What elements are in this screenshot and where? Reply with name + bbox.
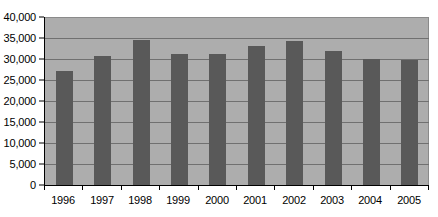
bar [286, 41, 303, 185]
x-axis-tick-mark [198, 185, 199, 190]
bar [56, 71, 73, 185]
x-axis-tick-label: 1999 [166, 194, 190, 206]
bar-chart: 05,00010,00015,00020,00025,00030,00035,0… [0, 0, 438, 217]
bar [133, 40, 150, 185]
x-axis-tick-mark [274, 185, 275, 190]
plot-area [44, 17, 429, 185]
x-axis-tick-mark [351, 185, 352, 190]
bar [401, 60, 418, 185]
y-axis-tick-label: 40,000 [4, 11, 36, 23]
y-axis-tick-label: 5,000 [9, 158, 36, 170]
bar [94, 56, 111, 185]
bar [209, 54, 226, 185]
x-axis-tick-mark [236, 185, 237, 190]
x-axis-tick-mark [159, 185, 160, 190]
x-axis-tick-mark [390, 185, 391, 190]
x-axis-tick-label: 1998 [128, 194, 152, 206]
x-axis-tick-mark [82, 185, 83, 190]
x-axis-tick-mark [44, 185, 45, 190]
x-axis-tick-mark [121, 185, 122, 190]
y-axis-tick-label: 15,000 [4, 116, 36, 128]
x-axis-tick-label: 2005 [397, 194, 421, 206]
x-axis-tick-mark [313, 185, 314, 190]
bars-group [45, 17, 429, 185]
x-axis-tick-label: 2004 [358, 194, 382, 206]
bar [248, 46, 265, 185]
x-axis-tick-label: 2001 [243, 194, 267, 206]
x-axis-tick-label: 1996 [51, 194, 75, 206]
y-axis-tick-label: 0 [30, 179, 36, 191]
y-axis-tick-label: 10,000 [4, 137, 36, 149]
bar [171, 54, 188, 185]
x-axis-tick-label: 2002 [282, 194, 306, 206]
x-axis-tick-label: 1997 [90, 194, 114, 206]
bar [363, 59, 380, 185]
x-axis-tick-label: 2003 [320, 194, 344, 206]
y-axis-tick-label: 30,000 [4, 53, 36, 65]
bar [325, 51, 342, 185]
x-axis: 1996199719981999200020012002200320042005 [44, 185, 429, 217]
x-axis-tick-label: 2000 [205, 194, 229, 206]
y-axis: 05,00010,00015,00020,00025,00030,00035,0… [0, 0, 44, 217]
y-axis-tick-label: 35,000 [4, 32, 36, 44]
x-axis-tick-mark [428, 185, 429, 190]
y-axis-tick-label: 20,000 [4, 95, 36, 107]
y-axis-tick-label: 25,000 [4, 74, 36, 86]
